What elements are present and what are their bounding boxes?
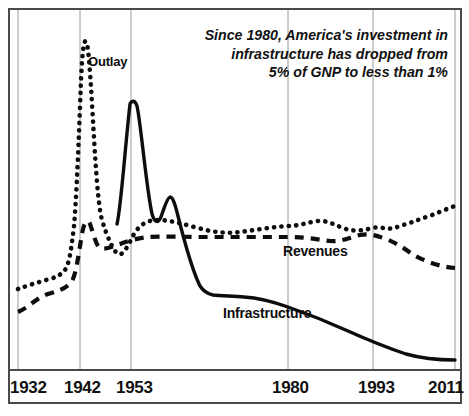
annotation-line-3: 5% of GNP to less than 1% [170,63,448,82]
annotation-line-2: infrastructure has dropped from [170,45,448,64]
x-axis-labels: 1932 1942 1953 1980 1993 2011 [10,372,460,402]
series-infrastructure-line [117,101,455,360]
chart-figure: Outlay Revenues Infrastructure Since 198… [0,0,469,416]
series-revenues-line [18,221,455,312]
x-tick-2011: 2011 [428,378,464,398]
annotation-line-1: Since 1980, America's investment in [170,26,448,45]
series-label-outlay: Outlay [88,54,127,69]
series-label-revenues: Revenues [283,243,348,259]
x-tick-1980: 1980 [272,378,309,398]
x-tick-1942: 1942 [64,378,101,398]
series-label-infrastructure: Infrastructure [223,305,311,321]
x-tick-1932: 1932 [10,378,47,398]
x-tick-1993: 1993 [358,378,395,398]
chart-annotation: Since 1980, America's investment in infr… [170,26,448,82]
x-tick-1953: 1953 [116,378,153,398]
